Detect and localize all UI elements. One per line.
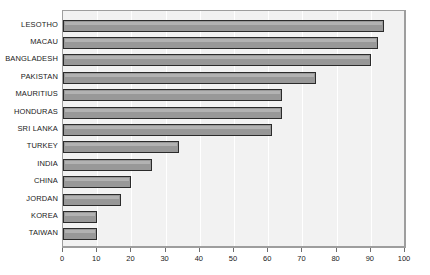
category-label-macau: MACAU [0,37,58,46]
bar-highlight [65,126,270,129]
gridline-100 [405,11,406,246]
bar-lesotho [63,20,384,32]
category-label-pakistan: PAKISTAN [0,72,58,81]
x-tick-100 [404,248,405,252]
bar-korea [63,211,97,223]
bar-row [63,87,404,104]
bar-jordan [63,194,121,206]
bar-pakistan [63,72,316,84]
x-tick-20 [130,248,131,252]
x-tick-80 [336,248,337,252]
category-label-china: CHINA [0,176,58,185]
bar-highlight [65,230,95,233]
bar-taiwan [63,228,97,240]
bar-highlight [65,109,280,112]
bar-highlight [65,56,369,59]
category-axis-labels: LESOTHOMACAUBANGLADESHPAKISTANMAURITIUSH… [0,10,58,248]
bar-highlight [65,161,150,164]
category-label-bangladesh: BANGLADESH [0,54,58,63]
x-tick-30 [165,248,166,252]
x-tick-40 [199,248,200,252]
x-tick-10 [96,248,97,252]
bar-row [63,139,404,156]
bar-row [63,226,404,243]
bar-highlight [65,74,314,77]
bar-india [63,159,152,171]
bar-row [63,156,404,173]
category-label-mauritius: MAURITIUS [0,89,58,98]
x-tick-label-80: 80 [321,254,351,263]
bar-row [63,173,404,190]
bar-row [63,17,404,34]
bar-turkey [63,141,179,153]
category-label-korea: KOREA [0,211,58,220]
x-tick-label-30: 30 [150,254,180,263]
x-tick-label-20: 20 [115,254,145,263]
category-label-turkey: TURKEY [0,141,58,150]
category-label-jordan: JORDAN [0,194,58,203]
bar-chart: LESOTHOMACAUBANGLADESHPAKISTANMAURITIUSH… [0,0,430,275]
bar-row [63,208,404,225]
plot-area [62,10,406,248]
x-tick-0 [62,248,63,252]
bar-sri-lanka [63,124,272,136]
bar-highlight [65,178,129,181]
bar-highlight [65,213,95,216]
bar-highlight [65,196,119,199]
bar-row [63,52,404,69]
bar-highlight [65,39,376,42]
bar-row [63,121,404,138]
x-tick-50 [233,248,234,252]
x-tick-label-60: 60 [252,254,282,263]
x-tick-70 [301,248,302,252]
category-label-taiwan: TAIWAN [0,228,58,237]
category-label-sri-lanka: SRI LANKA [0,124,58,133]
category-label-honduras: HONDURAS [0,107,58,116]
bar-highlight [65,22,382,25]
bar-bangladesh [63,54,371,66]
x-tick-label-70: 70 [286,254,316,263]
x-tick-label-50: 50 [218,254,248,263]
bar-honduras [63,107,282,119]
category-label-india: INDIA [0,159,58,168]
bar-mauritius [63,89,282,101]
bar-rows [63,11,404,246]
category-label-lesotho: LESOTHO [0,20,58,29]
x-tick-90 [370,248,371,252]
bar-china [63,176,131,188]
bar-row [63,104,404,121]
bar-row [63,191,404,208]
x-tick-label-40: 40 [184,254,214,263]
bar-highlight [65,91,280,94]
x-tick-60 [267,248,268,252]
x-tick-label-100: 100 [389,254,419,263]
bar-macau [63,37,378,49]
x-tick-label-90: 90 [355,254,385,263]
bar-row [63,69,404,86]
bar-highlight [65,143,177,146]
x-axis: 0102030405060708090100 [62,248,406,270]
x-tick-label-10: 10 [81,254,111,263]
bar-row [63,34,404,51]
x-tick-label-0: 0 [47,254,77,263]
